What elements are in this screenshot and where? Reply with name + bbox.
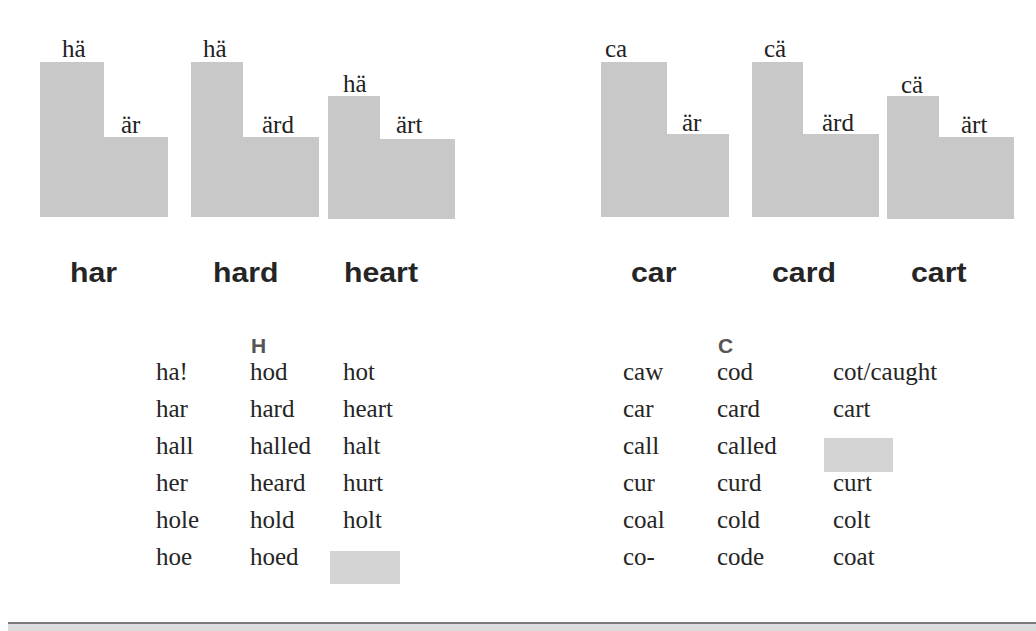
- table-cell: cod: [717, 358, 753, 385]
- table-cell: heard: [250, 469, 306, 496]
- onset-block: [752, 62, 803, 217]
- table-cell: her: [156, 469, 188, 496]
- table-header: C: [718, 335, 733, 357]
- word-label: heart: [344, 258, 418, 288]
- word-label: car: [631, 258, 676, 288]
- onset-block: [887, 96, 939, 219]
- table-cell: hold: [250, 506, 294, 533]
- table-cell: hole: [156, 506, 199, 533]
- table-cell: ha!: [156, 358, 188, 385]
- second-syllable-label: ärt: [396, 112, 422, 137]
- first-syllable-label: cä: [764, 36, 786, 61]
- table-cell: called: [717, 432, 777, 459]
- rhyme-block: [104, 137, 168, 217]
- first-syllable-label: hä: [62, 36, 86, 61]
- table-cell: hurt: [343, 469, 383, 496]
- rhyme-block: [667, 134, 729, 217]
- first-syllable-label: hä: [203, 36, 227, 61]
- table-cell: holt: [343, 506, 382, 533]
- table-cell: code: [717, 543, 764, 570]
- table-cell: hoed: [250, 543, 299, 570]
- table-cell: cold: [717, 506, 760, 533]
- second-syllable-label: ärt: [961, 112, 987, 137]
- table-cell: colt: [833, 506, 871, 533]
- first-syllable-label: ca: [605, 36, 627, 61]
- table-cell: coat: [833, 543, 875, 570]
- rhyme-block: [243, 137, 319, 217]
- table-cell: co-: [623, 543, 655, 570]
- table-cell: caw: [623, 358, 663, 385]
- table-cell: hard: [250, 395, 294, 422]
- table-header: H: [251, 335, 266, 357]
- first-syllable-label: cä: [901, 72, 923, 97]
- second-syllable-label: är: [121, 112, 140, 137]
- table-cell: curt: [833, 469, 872, 496]
- empty-cell-placeholder: [824, 438, 893, 472]
- table-cell: curd: [717, 469, 761, 496]
- rhyme-block: [939, 137, 1014, 219]
- second-syllable-label: är: [682, 110, 701, 135]
- onset-block: [328, 96, 380, 219]
- table-cell: cart: [833, 395, 870, 422]
- table-cell: halled: [250, 432, 311, 459]
- second-syllable-label: ärd: [822, 110, 854, 135]
- table-cell: car: [623, 395, 654, 422]
- table-cell: cur: [623, 469, 655, 496]
- onset-block: [601, 62, 667, 217]
- rhyme-block: [380, 139, 455, 219]
- word-label: cart: [911, 258, 966, 288]
- bottom-band: [8, 624, 1036, 631]
- onset-block: [191, 62, 243, 217]
- onset-block: [40, 62, 104, 217]
- table-cell: coal: [623, 506, 665, 533]
- word-label: har: [70, 258, 117, 288]
- word-label: card: [772, 258, 836, 288]
- table-cell: call: [623, 432, 659, 459]
- empty-cell-placeholder: [330, 551, 400, 584]
- word-label: hard: [213, 258, 279, 288]
- table-cell: har: [156, 395, 188, 422]
- table-cell: heart: [343, 395, 393, 422]
- second-syllable-label: ärd: [262, 112, 294, 137]
- first-syllable-label: hä: [343, 71, 367, 96]
- table-cell: cot/caught: [833, 358, 937, 385]
- rhyme-block: [803, 134, 879, 217]
- table-cell: hot: [343, 358, 375, 385]
- table-cell: hoe: [156, 543, 192, 570]
- table-cell: hall: [156, 432, 194, 459]
- table-cell: halt: [343, 432, 381, 459]
- table-cell: hod: [250, 358, 288, 385]
- table-cell: card: [717, 395, 760, 422]
